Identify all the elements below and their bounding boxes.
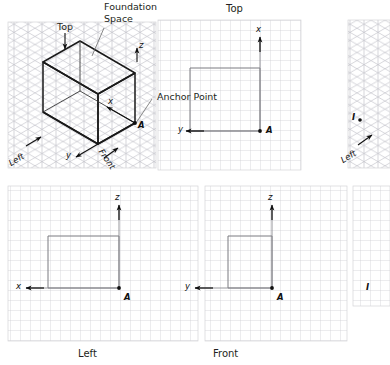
bottom-right-partial-marker: I xyxy=(366,282,369,292)
front-view-title: Front xyxy=(213,348,238,359)
top-view-x-label: x xyxy=(256,24,261,34)
left-view-x-label: x xyxy=(16,281,21,291)
top-view-anchor-dot xyxy=(258,129,262,133)
left-view-panel xyxy=(8,186,198,341)
iso-y-axis-label: y xyxy=(66,150,71,160)
iso-z-axis-label: z xyxy=(139,40,143,50)
front-view-y-label: y xyxy=(185,281,190,291)
right-partial-marker: I xyxy=(352,112,355,122)
foundation-space-label-line1: Foundation xyxy=(104,2,157,13)
front-view-anchor-label: A xyxy=(277,292,284,302)
bottom-right-partial-panel xyxy=(353,186,390,306)
front-view-anchor-dot xyxy=(270,286,274,290)
iso-x-axis-label: x xyxy=(108,96,113,106)
iso-anchor-label: A xyxy=(138,120,145,130)
foundation-space-label-line2: Space xyxy=(104,14,133,25)
figure-canvas xyxy=(0,0,390,365)
left-view-z-label: z xyxy=(115,192,119,202)
technical-drawing xyxy=(0,0,390,365)
left-view-anchor-label: A xyxy=(124,292,131,302)
top-view-anchor-label: A xyxy=(266,125,273,135)
front-view-panel xyxy=(195,186,347,341)
right-partial-dot xyxy=(358,118,362,122)
top-view-y-label: y xyxy=(178,124,183,134)
anchor-point-label: Anchor Point xyxy=(157,92,217,103)
front-view-z-label: z xyxy=(268,192,272,202)
isometric-panel xyxy=(8,22,156,168)
left-view-title: Left xyxy=(78,348,97,359)
right-partial-panel xyxy=(348,20,390,168)
iso-top-label: Top xyxy=(57,22,73,33)
top-view-title: Top xyxy=(226,3,243,14)
left-view-anchor-dot xyxy=(117,286,121,290)
